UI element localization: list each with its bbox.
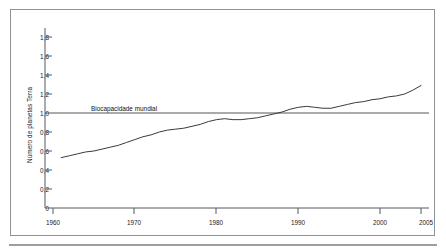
chart-svg [11,10,436,237]
ecological-footprint-line [61,85,421,157]
x-axis-ticks [53,208,421,214]
chart-figure-frame: Número de planetas Terra 1,8 1,6 1,4 1,2… [10,9,435,236]
chart-plot-container: Número de planetas Terra 1,8 1,6 1,4 1,2… [11,10,436,237]
axis-lines [45,28,429,208]
page-bottom-rule [9,244,437,246]
